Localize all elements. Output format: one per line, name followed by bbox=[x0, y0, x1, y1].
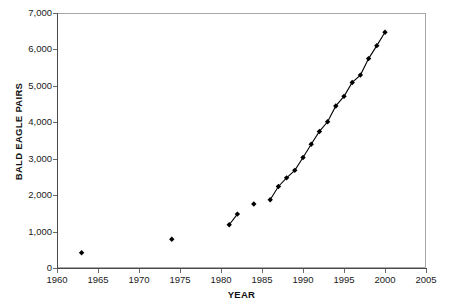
data-point-marker bbox=[169, 236, 174, 241]
data-point-marker bbox=[268, 197, 273, 202]
chart-root: 01,0002,0003,0004,0005,0006,0007,000 196… bbox=[0, 0, 456, 307]
data-point-marker bbox=[309, 141, 314, 146]
series-line-segment bbox=[229, 214, 237, 225]
data-point-marker bbox=[300, 155, 305, 160]
data-point-marker bbox=[374, 43, 379, 48]
data-point-marker bbox=[382, 30, 387, 35]
data-point-marker bbox=[79, 250, 84, 255]
data-point-marker bbox=[366, 56, 371, 61]
data-series-layer bbox=[0, 0, 456, 307]
data-point-marker bbox=[251, 201, 256, 206]
